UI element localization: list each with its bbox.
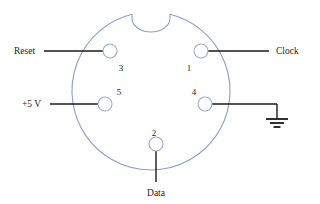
- pin-number-2: 2: [152, 128, 157, 138]
- diagram-canvas: 3 1 5 4 2 Reset Clock +5 V Data: [0, 0, 320, 204]
- pin-number-4: 4: [192, 87, 197, 97]
- signal-label-reset: Reset: [14, 46, 35, 56]
- earth-ground-symbol: [266, 104, 288, 127]
- signal-label-data: Data: [147, 188, 166, 198]
- signal-label-plus5v: +5 V: [22, 99, 41, 109]
- signal-label-clock: Clock: [276, 46, 299, 56]
- pin-number-5: 5: [117, 87, 122, 97]
- pin-hole-5: [98, 97, 112, 111]
- connector-pinout-diagram: 3 1 5 4 2 Reset Clock +5 V Data: [0, 0, 320, 204]
- pin-number-3: 3: [119, 63, 124, 73]
- pin-hole-3: [103, 44, 117, 58]
- pin-hole-1: [194, 44, 208, 58]
- pin-hole-2: [149, 137, 163, 151]
- pin-number-1: 1: [187, 63, 192, 73]
- pin-hole-4: [198, 97, 212, 111]
